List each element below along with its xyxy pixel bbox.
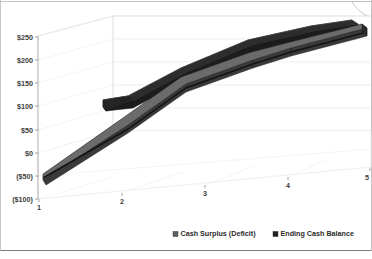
y-tick-label: $50 bbox=[21, 126, 33, 135]
x-tick-label: 2 bbox=[120, 197, 124, 206]
legend-label: Cash Surplus (Deficit) bbox=[181, 229, 257, 238]
y-axis bbox=[35, 36, 38, 199]
y-tick-label: ($100) bbox=[12, 195, 33, 204]
legend-item-ending-cash-balance[interactable]: Ending Cash Balance bbox=[273, 229, 354, 238]
legend-item-cash-surplus-deficit[interactable]: Cash Surplus (Deficit) bbox=[173, 229, 256, 238]
x-tick-label: 5 bbox=[365, 173, 369, 182]
legend-marker bbox=[273, 232, 278, 237]
legend-label: Ending Cash Balance bbox=[281, 229, 355, 238]
legend-marker bbox=[173, 232, 178, 237]
x-tick-label: 4 bbox=[286, 181, 290, 190]
x-tick-label: 3 bbox=[203, 189, 207, 198]
y-tick-label: $100 bbox=[17, 102, 33, 111]
y-tick-label: ($50) bbox=[16, 172, 33, 181]
y-tick-label: $250 bbox=[17, 33, 33, 42]
x-tick-label: 1 bbox=[37, 203, 41, 212]
y-tick-labels: $250 $200 $150 $100 $50 $0 ($50) ($100) bbox=[12, 33, 33, 204]
y-tick-label: $0 bbox=[25, 149, 33, 158]
chart-legend: Cash Surplus (Deficit) Ending Cash Balan… bbox=[173, 229, 354, 238]
y-tick-label: $150 bbox=[17, 79, 33, 88]
3d-line-chart: $250 $200 $150 $100 $50 $0 ($50) ($100) … bbox=[0, 0, 372, 259]
chart-container: $250 $200 $150 $100 $50 $0 ($50) ($100) … bbox=[0, 0, 372, 259]
y-tick-label: $200 bbox=[17, 56, 33, 65]
